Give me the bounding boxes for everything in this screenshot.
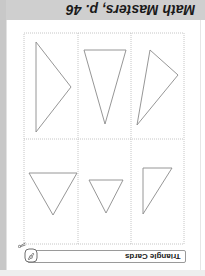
triangle-card-5 (89, 180, 123, 213)
triangle-cards (29, 42, 178, 215)
triangle-card-2 (84, 50, 126, 124)
triangle-card-6 (143, 168, 172, 214)
worksheet-page: Math Masters, p. 46 Triangle Cards (0, 0, 205, 276)
triangle-card-3 (137, 50, 178, 125)
triangle-card-4 (29, 173, 77, 215)
grid-lines (24, 33, 184, 244)
card-set-title: Triangle Cards (125, 251, 181, 262)
grid-outer-border (24, 33, 184, 244)
triangle-card-1 (36, 42, 71, 132)
card-set-label: Triangle Cards (27, 250, 186, 263)
card-grid (0, 0, 205, 276)
pencil-badge-icon (24, 248, 38, 263)
